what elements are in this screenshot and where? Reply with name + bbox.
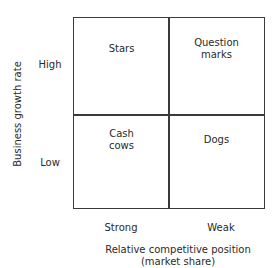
x-axis-title: Relative competitive position (market sh…: [93, 244, 263, 268]
cell-stars-label: Stars: [109, 43, 135, 55]
cell-dogs: Dogs: [169, 115, 264, 211]
cell-stars: Stars: [74, 18, 169, 114]
x-axis-title-line1: Relative competitive position: [93, 244, 263, 256]
col-label-strong: Strong: [81, 222, 161, 233]
cell-question-marks-label: Question marks: [194, 37, 239, 61]
col-label-weak: Weak: [181, 222, 261, 233]
cell-question-marks: Question marks: [169, 18, 264, 114]
x-axis-title-line2: (market share): [93, 256, 263, 268]
row-label-high: High: [32, 59, 68, 70]
y-axis-title: Business growth rate: [12, 61, 23, 167]
row-label-low: Low: [32, 157, 68, 168]
matrix-grid: Stars Question marks Cash cows Dogs: [73, 17, 265, 209]
cell-cash-cows: Cash cows: [74, 115, 169, 211]
cell-dogs-label: Dogs: [204, 134, 229, 146]
cell-cash-cows-label: Cash cows: [109, 128, 134, 152]
